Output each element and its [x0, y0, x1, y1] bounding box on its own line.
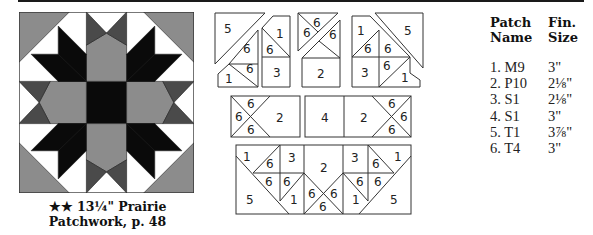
label: 6 [388, 97, 396, 111]
patch-size: 3" [548, 140, 561, 156]
label: 6 [356, 175, 364, 189]
label: 6 [372, 157, 380, 171]
label: 3 [351, 151, 359, 165]
header-patch-name-line1: Patch [490, 15, 532, 30]
label: 1 [394, 150, 402, 164]
label: 6 [319, 200, 327, 214]
label: 4 [321, 111, 329, 125]
label: 3 [288, 151, 296, 165]
header-fin-size-line1: Fin. [548, 15, 578, 30]
label: 2 [320, 161, 328, 175]
label: 6 [266, 157, 274, 171]
label: 1 [352, 193, 360, 207]
header-fin-size-line2: Size [548, 30, 578, 45]
patch-size: 2⅛" [548, 75, 572, 91]
patch-size: 3⅞" [548, 124, 572, 140]
label: 2 [360, 111, 368, 125]
label: 5 [224, 22, 232, 36]
label: 2 [317, 67, 325, 81]
patch-name: 6. T4 [490, 140, 520, 156]
label: 6 [384, 42, 392, 56]
label: 6 [308, 187, 316, 201]
label: 6 [313, 16, 321, 30]
label: 1 [225, 72, 233, 86]
label: 6 [243, 42, 251, 56]
patch-name: 4. S1 [490, 108, 520, 124]
label: 6 [383, 59, 391, 73]
patch-name: 5. T1 [490, 124, 520, 140]
header-patch-name: Patch Name [490, 15, 532, 45]
label: 6 [303, 26, 311, 40]
patch-name: 2. P10 [490, 75, 527, 91]
label: 3 [361, 66, 369, 80]
label: 6 [247, 97, 255, 111]
label: 6 [283, 175, 291, 189]
label: 6 [330, 187, 338, 201]
label: 2 [276, 111, 284, 125]
label: 6 [400, 110, 408, 124]
label: 1 [276, 27, 284, 41]
patch-name: 3. S1 [490, 91, 520, 107]
label: 1 [243, 150, 251, 164]
patch-size: 3" [548, 108, 561, 124]
patch-size: 3" [548, 59, 561, 75]
label: 6 [247, 123, 255, 137]
label: 6 [235, 110, 243, 124]
header-patch-name-line2: Name [490, 30, 532, 45]
label: 1 [357, 24, 365, 38]
header-fin-size: Fin. Size [548, 15, 578, 45]
label: 6 [246, 62, 254, 76]
patch-name: 1. M9 [490, 59, 525, 75]
label: 1 [401, 71, 409, 85]
label: 3 [273, 66, 281, 80]
label: 6 [265, 175, 273, 189]
patch-size: 2⅛" [548, 91, 572, 107]
label: 5 [404, 24, 412, 38]
label: 6 [374, 175, 382, 189]
label: 1 [290, 193, 298, 207]
label: 5 [390, 193, 398, 207]
label: 6 [364, 42, 372, 56]
label: 6 [388, 123, 396, 137]
label: 6 [329, 28, 337, 42]
label: 5 [246, 193, 254, 207]
label: 6 [266, 43, 274, 57]
